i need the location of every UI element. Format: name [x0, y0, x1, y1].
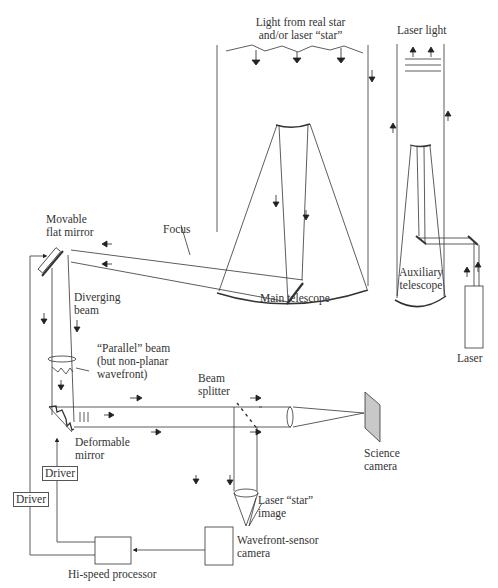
label-main-telescope: Main telescope — [260, 292, 330, 305]
science-camera-plate — [365, 392, 380, 442]
label-line: camera — [237, 547, 318, 560]
label-line: Beam — [198, 372, 230, 385]
label-hi-speed-processor: Hi-speed processor — [68, 568, 156, 581]
label-laser-star-image: Laser “star” image — [258, 494, 313, 520]
label-line: Movable — [46, 213, 94, 226]
science-lens — [287, 407, 293, 427]
label-line: flat mirror — [46, 226, 94, 239]
label-diverging-beam: Diverging beam — [74, 291, 120, 317]
label-line: Diverging — [74, 291, 120, 304]
label-parallel-beam: “Parallel” beam (but non-planar wavefron… — [97, 342, 170, 381]
incoming-wavefront — [226, 45, 363, 53]
label-driver-deformable: Driver — [42, 466, 78, 481]
label-line: Light from real star — [243, 16, 358, 29]
label-line: camera — [364, 460, 400, 473]
label-focus: Focus — [163, 223, 190, 236]
label-line: Deformable — [75, 436, 130, 449]
label-deformable-mirror: Deformable mirror — [75, 436, 130, 462]
adaptive-optics-diagram: Light from real star and/or laser “star”… — [0, 0, 498, 588]
deformable-mirror — [49, 406, 74, 430]
label-line: Auxiliary — [396, 266, 446, 279]
label-wavefront-sensor-camera: Wavefront-sensor camera — [237, 534, 318, 560]
main-secondary-mirror — [276, 124, 310, 127]
movable-flat-mirror — [38, 248, 63, 276]
label-line: Wavefront-sensor — [237, 534, 318, 547]
label-laser-light: Laser light — [397, 24, 447, 37]
label-light-from-star: Light from real star and/or laser “star” — [243, 16, 358, 42]
label-auxiliary-telescope: Auxiliary telescope — [396, 266, 446, 292]
label-science-camera: Science camera — [364, 447, 400, 473]
wavefront-lens — [234, 489, 258, 497]
label-laser: Laser — [457, 352, 483, 365]
label-line: splitter — [198, 385, 230, 398]
label-line: Science — [364, 447, 400, 460]
label-line: mirror — [75, 449, 130, 462]
label-line: Laser “star” — [258, 494, 313, 507]
label-line: telescope — [396, 279, 446, 292]
label-beam-splitter: Beam splitter — [198, 372, 230, 398]
label-line: “Parallel” beam — [97, 342, 170, 355]
label-line: image — [258, 507, 313, 520]
label-line: (but non-planar — [97, 355, 170, 368]
label-driver-movable: Driver — [13, 492, 49, 507]
aux-primary-mirror — [395, 296, 446, 307]
wavefront-sensor-box — [205, 527, 233, 565]
laser-box — [465, 286, 483, 348]
label-line: and/or laser “star” — [243, 29, 358, 42]
processor-box — [95, 537, 131, 564]
label-line: wavefront) — [97, 368, 170, 381]
label-movable-flat-mirror: Movable flat mirror — [46, 213, 94, 239]
label-line: beam — [74, 304, 120, 317]
